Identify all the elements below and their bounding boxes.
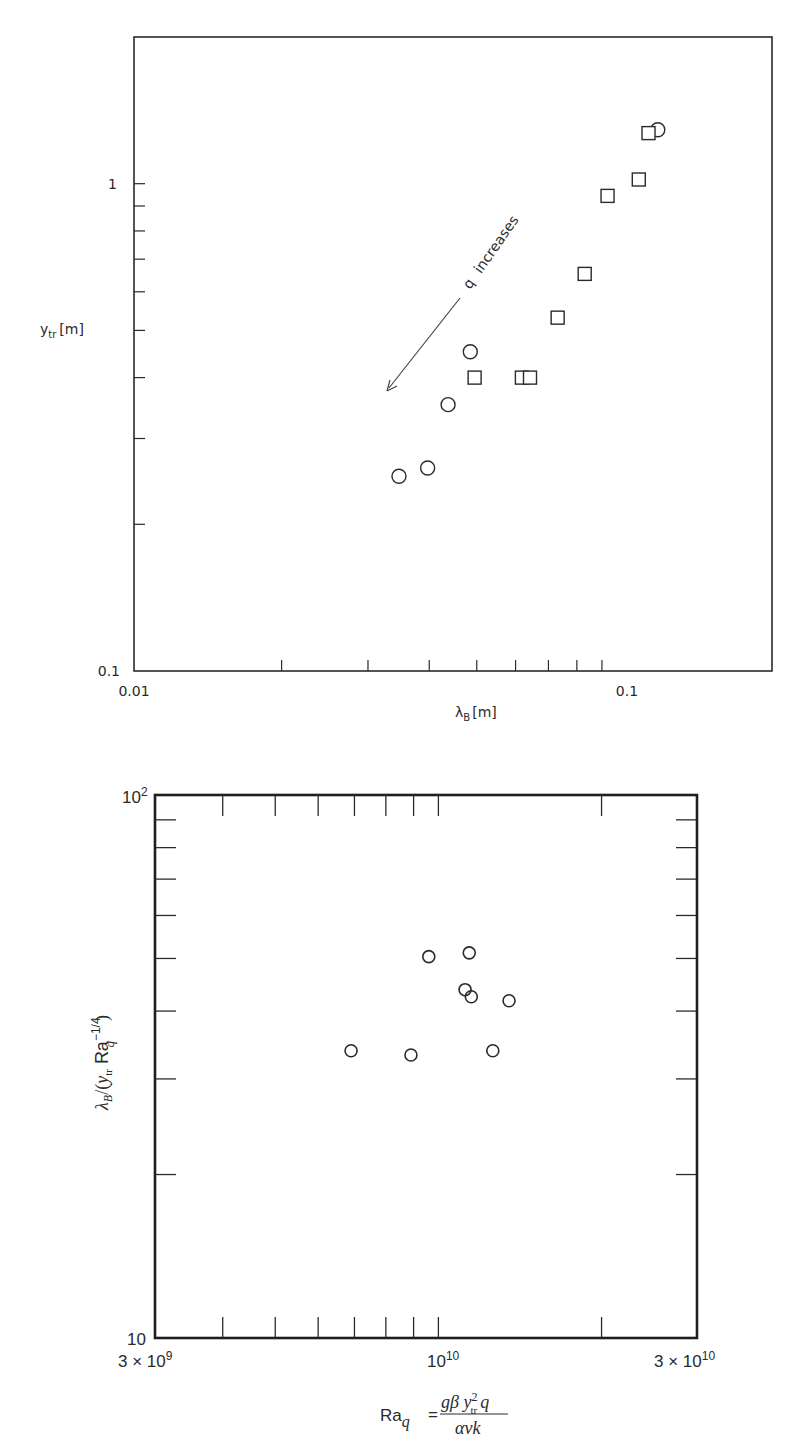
top-y-label-unit: [m] [59,321,84,337]
top-scatter-plot: 0.01 0.1 0.1 1 λB[m] ytr[m] q increases [40,37,772,723]
bottom-y-tick-label-10: 10 [127,1330,146,1349]
ra-denominator: ανk [455,1418,481,1438]
top-y-axis-label: ytr[m] [40,321,84,340]
circle-marker [423,951,435,963]
annotation-text: q increases [459,212,521,291]
bottom-x-tick-3e9-base: 3 × 10 [118,1352,166,1371]
bottom-x-axis-label: Raq = gβ y2trq ανk [380,1390,508,1438]
ra-text: Ra [380,1406,402,1425]
top-x-axis-label: λB[m] [455,704,497,723]
bottom-x-tick-3e9-exp: 9 [166,1349,173,1363]
top-x-label-sub: B [463,712,470,723]
square-marker [578,267,591,280]
bottom-y-tick-100-base: 10 [122,788,141,807]
figure-canvas: 0.01 0.1 0.1 1 λB[m] ytr[m] q increases [0,0,797,1448]
bottom-plot-markers [345,947,515,1061]
ylabel-y: y [92,1076,112,1086]
bottom-scatter-plot: 10 102 3 × 109 1010 3 × 1010 Raq = [89,785,715,1438]
bottom-x-tick-3e10-exp: 10 [702,1349,716,1363]
bottom-plot-frame [155,795,697,1338]
bottom-plot-ticks [155,795,697,1338]
top-plot-frame [134,37,772,671]
bottom-y-tick-label-100: 102 [122,785,148,807]
ylabel-lambda: λ [92,1102,112,1111]
circle-marker [463,947,475,959]
equals-sign: = [428,1405,438,1424]
top-y-tick-label-0.1: 0.1 [98,663,120,679]
bottom-x-tick-1e10-base: 10 [427,1352,446,1371]
bottom-x-tick-label-3e10: 3 × 1010 [654,1349,715,1371]
arrowhead-icon [387,380,397,391]
top-x-tick-label-0.1: 0.1 [616,683,638,699]
bottom-x-tick-1e10-exp: 10 [446,1349,460,1363]
circle-marker [421,461,435,475]
numerator-g-beta-y: gβ y [441,1392,471,1412]
circle-marker [503,995,515,1007]
circle-marker [487,1045,499,1057]
circle-marker [441,398,455,412]
square-marker [642,127,655,140]
ylabel-close-paren: ) [92,1015,113,1021]
square-marker [551,311,564,324]
top-y-tick-label-1: 1 [108,176,117,192]
bottom-x-tick-3e10-base: 3 × 10 [654,1352,702,1371]
top-y-label-sub: tr [48,329,57,340]
bottom-y-axis-label: λB/(ytr Ra−1/4q) [89,1015,117,1111]
ylabel-ra-sub: q [102,1040,117,1047]
top-x-label-unit: [m] [472,704,497,720]
q-increases-annotation: q increases [387,212,522,391]
ra-sub-q: q [402,1413,410,1431]
top-x-label-lambda: λ [455,704,463,720]
ylabel-slash: /( [92,1084,113,1095]
annotation-arrow-line [389,298,460,388]
circle-marker [345,1045,357,1057]
square-marker [523,371,536,384]
top-x-tick-label-0.01: 0.01 [118,683,149,699]
square-marker [468,371,481,384]
ra-q-label: Raq [380,1406,410,1431]
bottom-x-tick-label-3e9: 3 × 109 [118,1349,173,1371]
bottom-y-tick-100-exp: 2 [141,785,148,799]
numerator-q: q [480,1392,489,1412]
top-plot-markers [392,123,665,483]
circle-marker [465,991,477,1003]
square-marker [601,189,614,202]
circle-marker [463,345,477,359]
numerator-sup-2: 2 [471,1390,477,1404]
top-plot-ticks [134,184,602,671]
annotation-increases: increases [470,212,521,275]
square-marker [632,173,645,186]
circle-marker [459,984,471,996]
top-y-label-y: y [40,321,48,337]
ra-numerator: gβ y2trq [441,1390,489,1416]
bottom-x-tick-label-1e10: 1010 [427,1349,460,1371]
circle-marker [405,1049,417,1061]
circle-marker [392,469,406,483]
figure-page: 0.01 0.1 0.1 1 λB[m] ytr[m] q increases [0,0,797,1448]
annotation-q: q [459,275,477,291]
